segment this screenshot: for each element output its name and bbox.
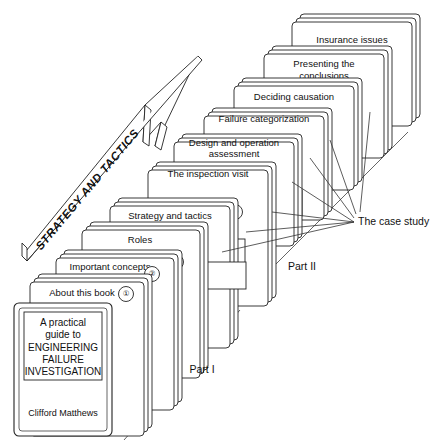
chapter-label: Design and operation [189,137,279,148]
book-title-line-3: ENGINEERING [28,342,98,353]
book-title-line-1: A practical [40,317,86,328]
chapter-label: Strategy and tactics [128,210,212,221]
book-author: Clifford Matthews [28,408,98,418]
diagram-canvas: STRATEGY AND TACTICS Insurance issues ⑩ … [0,0,436,444]
chapter-label: Important concepts [70,261,151,272]
book-structure-diagram: STRATEGY AND TACTICS Insurance issues ⑩ … [0,0,436,444]
chapter-label: Roles [128,234,153,245]
chapter-label: About this book [49,287,115,298]
chapter-label: Failure categorization [219,113,310,124]
part-two-label: Part II [288,260,316,272]
part-one-label: Part I [189,363,214,375]
book-title-line-2: guide to [45,329,81,340]
chapter-label-line2: assessment [209,148,260,159]
book-title-line-4: FAILURE [42,354,84,365]
chapter-number: ① [123,289,130,298]
chapter-label: Deciding causation [254,91,334,102]
chapter-label: The inspection visit [168,168,249,179]
book-title-line-5: INVESTIGATION [25,366,102,377]
book-cover[interactable]: A practical guide to ENGINEERING FAILURE… [14,303,112,436]
chapter-label: Insurance issues [316,34,388,45]
case-study-label: The case study [358,215,430,227]
chapter-label: Presenting the [293,58,354,69]
